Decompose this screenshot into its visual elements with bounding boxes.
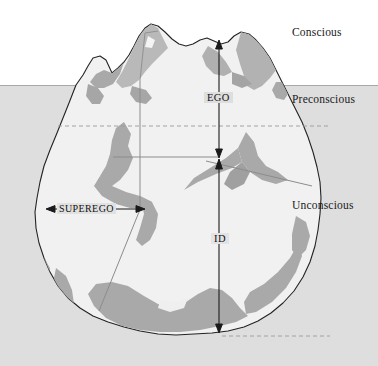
structure-label-ego: EGO bbox=[204, 92, 233, 103]
zone-label-preconscious: Preconscious bbox=[292, 93, 355, 105]
iceberg-illustration bbox=[0, 0, 378, 366]
structure-label-id: ID bbox=[211, 233, 229, 244]
zone-label-unconscious: Unconscious bbox=[292, 199, 354, 211]
diagram-canvas: Conscious Preconscious Unconscious EGO I… bbox=[0, 0, 378, 366]
structure-label-superego: SUPEREGO bbox=[57, 203, 116, 214]
zone-label-conscious: Conscious bbox=[292, 26, 342, 38]
